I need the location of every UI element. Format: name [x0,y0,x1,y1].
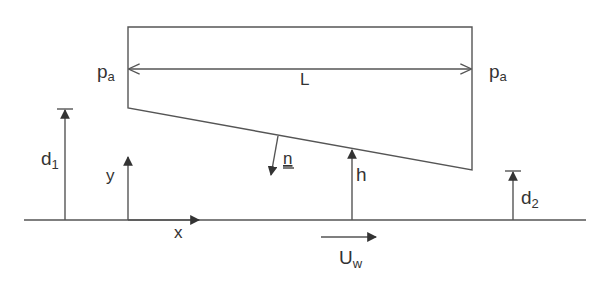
slider-pad [128,27,472,170]
y-axis-label: y [106,166,115,185]
bearing-diagram: L pa pa x y d1 n h d2 Uw [0,0,591,281]
pressure-right-label: pa [489,61,508,84]
normal-vector-arrow [271,136,278,175]
d2-label: d2 [521,187,539,211]
x-axis-label: x [174,223,183,242]
wall-velocity-label: Uw [339,247,363,271]
pressure-left-label: pa [97,61,116,84]
length-label: L [300,70,309,89]
normal-label: n [283,149,292,168]
d1-label: d1 [41,148,59,172]
h-label: h [356,164,367,185]
